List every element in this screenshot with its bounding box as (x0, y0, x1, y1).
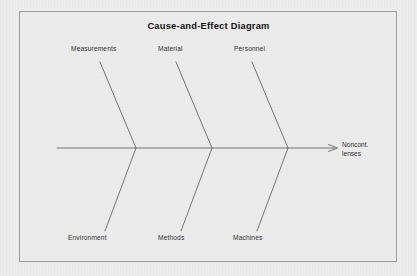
bone-methods (181, 148, 212, 231)
bone-material (176, 62, 212, 148)
effect-label-line-1: Noncont. (342, 140, 368, 149)
bone-label-material: Material (158, 45, 183, 53)
bone-machines (257, 148, 288, 231)
bone-label-methods: Methods (158, 234, 184, 242)
bone-personnel (252, 62, 288, 148)
bone-label-measurements: Measurements (71, 45, 116, 53)
bone-label-personnel: Personnel (234, 45, 265, 53)
bone-environment (105, 148, 136, 231)
fishbone-drawing (0, 0, 417, 276)
bone-measurements (100, 62, 136, 148)
bone-label-machines: Machines (233, 234, 262, 242)
effect-label-line-2: lenses (342, 149, 368, 158)
bone-label-environment: Environment (68, 234, 107, 242)
figure-page: Cause-and-Effect Diagram Measurements Ma… (0, 0, 417, 276)
effect-label: Noncont. lenses (342, 140, 368, 158)
